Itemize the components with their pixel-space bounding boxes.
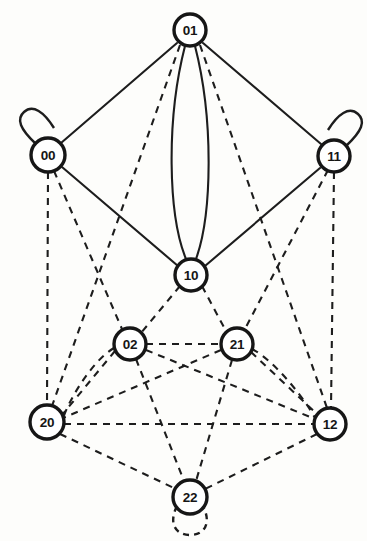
node-20[interactable]: 20	[30, 405, 64, 439]
node-12[interactable]: 12	[314, 408, 346, 440]
node-label-21: 21	[230, 337, 245, 352]
node-label-20: 20	[40, 415, 54, 430]
node-22[interactable]: 22	[173, 480, 207, 514]
graph-figure: 010011100221201222	[0, 0, 367, 541]
node-label-02: 02	[123, 337, 137, 352]
node-21[interactable]: 21	[221, 328, 253, 360]
edge-01-10	[195, 46, 209, 259]
edge-20-22	[60, 434, 176, 489]
edge-11-21	[245, 170, 328, 329]
edge-01-10	[172, 46, 186, 259]
edge-01-12	[200, 45, 327, 408]
edge-00-10	[62, 167, 178, 266]
edge-00-20	[47, 172, 48, 405]
node-label-01: 01	[183, 23, 198, 38]
node-label-11: 11	[327, 149, 341, 164]
edge-10-21	[202, 286, 227, 333]
node-00[interactable]: 00	[31, 138, 65, 172]
edge-10-02	[141, 286, 180, 333]
edge-11-12	[331, 172, 334, 408]
edge-01-11	[203, 43, 321, 144]
edge-12-22	[205, 434, 317, 489]
node-label-10: 10	[184, 268, 198, 283]
node-10[interactable]: 10	[175, 259, 207, 291]
edge-02-20	[62, 351, 115, 415]
node-11[interactable]: 11	[318, 140, 350, 172]
nodes-layer: 010011100221201222	[30, 14, 350, 514]
node-label-22: 22	[183, 490, 197, 505]
edge-21-22	[196, 360, 232, 481]
graph-canvas: 010011100221201222	[0, 0, 367, 541]
node-label-00: 00	[41, 148, 55, 163]
self-loops-layer	[20, 109, 362, 535]
node-01[interactable]: 01	[174, 14, 206, 46]
edge-01-00	[61, 43, 177, 143]
node-02[interactable]: 02	[114, 328, 146, 360]
node-label-12: 12	[323, 417, 337, 432]
